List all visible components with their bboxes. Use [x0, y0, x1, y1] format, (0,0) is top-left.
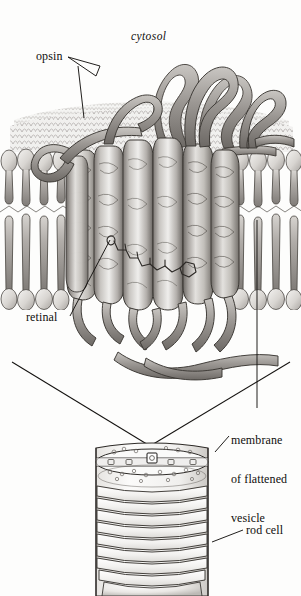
opsin-helix-5	[183, 144, 213, 304]
opsin-helix-3	[123, 140, 153, 310]
label-rod-cell: rod cell	[246, 524, 283, 537]
label-cytosol: cytosol	[131, 30, 166, 42]
opsin-helix-7	[66, 156, 88, 292]
label-opsin: opsin	[36, 50, 63, 63]
opsin-helix-4	[153, 138, 183, 310]
opsin-helix-2	[94, 146, 124, 304]
label-retinal: retinal	[26, 311, 57, 324]
label-membrane-line-1: membrane	[231, 434, 287, 447]
opsin-helix-6	[211, 150, 239, 298]
opsin-transmembrane-helices	[66, 138, 239, 310]
rod-cell	[96, 443, 208, 596]
label-membrane-line-2: of flattened	[231, 473, 287, 486]
rhodopsin-figure: cytosol opsin retinal membrane of flatte…	[0, 0, 301, 596]
